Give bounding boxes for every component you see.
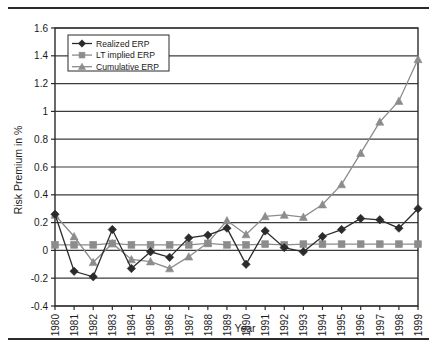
x-tick-label: 1983 [107,314,118,337]
marker-square [128,241,135,248]
marker-diamond [108,225,116,233]
x-tick-label: 1982 [88,314,99,337]
marker-diamond [356,214,364,222]
x-tick-label: 1997 [375,314,386,337]
x-axis-title: Year [234,322,256,334]
marker-square [300,241,307,248]
marker-triangle [395,97,403,104]
y-tick-label: 1 [42,106,48,117]
x-tick-label: 1986 [164,314,175,337]
y-tick-label: 0.8 [34,134,48,145]
y-axis-title: Risk Premium in % [12,126,24,215]
x-tick-label: 1996 [355,314,366,337]
y-tick-label: -0.2 [31,273,49,284]
y-axis-tick-labels: 1.61.41.210.80.60.40.20-0.2-0.4 [31,23,49,312]
x-tick-label: 1987 [184,314,195,337]
chart-figure: 1.61.41.210.80.60.40.20-0.2-0.4 19801981… [0,0,437,354]
marker-square [79,52,85,58]
marker-square [243,241,250,248]
marker-square [109,240,116,247]
marker-diamond [89,273,97,281]
y-tick-label: 1.4 [34,50,48,61]
marker-square [71,241,78,248]
marker-square [415,241,422,248]
y-tick-label: 0.6 [34,162,48,173]
marker-square [224,241,231,248]
x-tick-label: 1985 [145,314,156,337]
marker-square [319,241,326,248]
x-tick-label: 1993 [298,314,309,337]
x-tick-label: 1992 [279,314,290,337]
legend-label: LT implied ERP [96,50,155,60]
y-tick-label: 0.2 [34,217,48,228]
x-tick-label: 1995 [336,314,347,337]
x-tick-label: 1981 [69,314,80,337]
marker-diamond [223,224,231,232]
marker-triangle [185,253,193,260]
x-tick-label: 1980 [50,314,61,337]
marker-diamond [242,260,250,268]
marker-triangle [338,180,346,187]
y-tick-label: 0 [42,245,48,256]
x-tick-label: 1998 [394,314,405,337]
x-tick-label: 1988 [203,314,214,337]
chart-legend: Realized ERPLT implied ERPCumulative ERP [68,35,169,72]
marker-diamond [70,267,78,275]
y-tick-label: 1.2 [34,78,48,89]
marker-triangle [223,217,231,224]
x-tick-label: 1989 [222,314,233,337]
data-series-layer [51,55,422,281]
x-tick-label: 1999 [413,314,424,337]
risk-premium-line-chart: 1.61.41.210.80.60.40.20-0.2-0.4 19801981… [0,0,437,354]
y-tick-label: 0.4 [34,189,48,200]
marker-square [262,241,269,248]
marker-diamond [204,231,212,239]
x-tick-label: 1984 [126,314,137,337]
marker-square [395,241,402,248]
marker-diamond [337,225,345,233]
legend-label: Cumulative ERP [96,62,159,72]
marker-square [357,241,364,248]
marker-square [52,241,59,248]
marker-triangle [166,264,174,271]
y-tick-label: -0.4 [31,301,49,312]
marker-square [204,240,211,247]
x-tick-label: 1991 [260,314,271,337]
marker-square [376,241,383,248]
marker-triangle [357,149,365,156]
marker-square [166,241,173,248]
x-tick-label: 1994 [317,314,328,337]
marker-square [90,241,97,248]
y-tick-label: 1.6 [34,23,48,34]
legend-label: Realized ERP [96,39,150,49]
marker-square [338,241,345,248]
